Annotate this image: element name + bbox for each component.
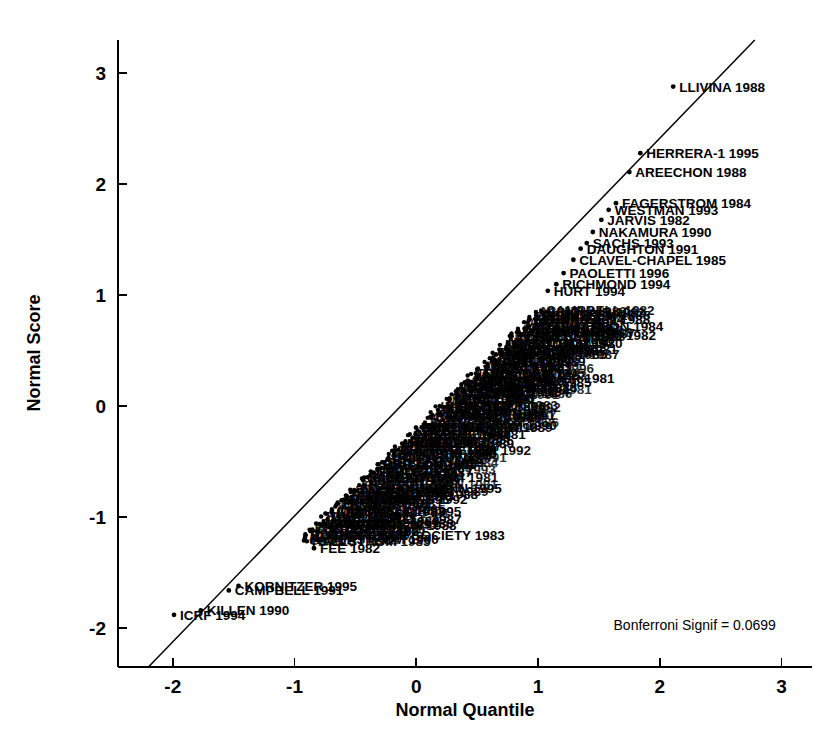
point-marker (375, 467, 379, 471)
point-marker (357, 483, 361, 487)
point-marker (342, 497, 346, 501)
point-marker (571, 257, 576, 262)
qq-plot-figure: -2-101233210-1-2 LLIVINA 1988HERRERA-1 1… (0, 0, 831, 749)
data-point: ICRF 1994 (172, 608, 246, 623)
axes-group (118, 40, 812, 667)
point-marker (396, 447, 400, 451)
point-marker (362, 483, 366, 487)
cluster-point: SINCLAIR 1982 (541, 305, 646, 320)
point-marker (314, 521, 318, 525)
bonferroni-signif: Bonferroni Signif = 0.0699 (614, 617, 776, 633)
point-marker (387, 452, 391, 456)
point-marker (335, 500, 339, 504)
y-axis-title: Normal Score (24, 294, 44, 411)
point-marker (172, 612, 177, 617)
point-marker (369, 469, 373, 473)
point-marker (522, 320, 526, 324)
normal-reference-line (148, 40, 754, 667)
point-marker (474, 371, 478, 375)
x-tick-label: -2 (164, 676, 181, 697)
point-marker (348, 488, 352, 492)
point-marker (319, 514, 323, 518)
point-marker (352, 488, 356, 492)
y-tick-label: 1 (95, 285, 106, 306)
point-marker (310, 527, 314, 531)
data-point: HURT 1994 (545, 284, 625, 299)
point-marker (226, 588, 231, 593)
point-label: ICRF 1994 (180, 608, 246, 623)
point-marker (433, 404, 437, 408)
point-marker (393, 444, 397, 448)
point-label: CAMPBELL 1991 (235, 583, 344, 598)
point-marker (482, 360, 486, 364)
point-marker (449, 392, 453, 396)
y-tick-label: 3 (95, 63, 106, 84)
point-marker (561, 271, 566, 276)
point-marker (469, 372, 473, 376)
point-marker (305, 539, 309, 543)
data-points-group: LLIVINA 1988HERRERA-1 1995AREECHON 1988F… (172, 80, 766, 623)
point-marker (408, 440, 412, 444)
point-marker (506, 341, 510, 345)
x-axis-title: Normal Quantile (395, 700, 534, 720)
y-tick-label: 0 (95, 396, 106, 417)
point-marker (590, 230, 595, 235)
point-marker (438, 404, 442, 408)
point-marker (326, 517, 330, 521)
point-marker (638, 151, 643, 156)
point-marker (414, 425, 418, 429)
point-marker (408, 432, 412, 436)
point-marker (541, 311, 545, 315)
data-point: CAMPBELL 1991 (226, 583, 343, 598)
point-marker (447, 396, 451, 400)
dense-cluster-group: GARVEY 1989FAGERSTROM 1990HALLSTROM 1985… (302, 303, 655, 549)
point-label: AREECHON 1988 (635, 165, 747, 180)
reference-line-group (148, 40, 754, 667)
point-marker (430, 413, 434, 417)
x-tick-label: 0 (411, 676, 422, 697)
point-marker (380, 460, 384, 464)
point-marker (516, 327, 520, 331)
point-marker (476, 366, 480, 370)
point-marker (425, 416, 429, 420)
x-tick-label: 1 (533, 676, 544, 697)
y-tick-label: 2 (95, 174, 106, 195)
point-marker (488, 356, 492, 360)
y-tick-label: -2 (89, 618, 106, 639)
point-marker (459, 385, 463, 389)
data-point: AREECHON 1988 (627, 165, 747, 180)
point-marker (321, 520, 325, 524)
point-label: HERRERA-1 1995 (646, 146, 759, 161)
point-marker (522, 326, 526, 330)
point-marker (509, 331, 513, 335)
point-marker (344, 493, 348, 497)
point-marker (454, 389, 458, 393)
point-marker (606, 207, 611, 212)
point-marker (527, 315, 531, 319)
point-marker (578, 246, 583, 251)
point-marker (365, 475, 369, 479)
point-marker (671, 84, 676, 89)
point-marker (497, 347, 501, 351)
point-marker (423, 420, 427, 424)
qq-plot-canvas: -2-101233210-1-2 LLIVINA 1988HERRERA-1 1… (0, 0, 831, 749)
annotations-group: Bonferroni Signif = 0.0699 (614, 617, 776, 633)
data-point: HERRERA-1 1995 (638, 146, 759, 161)
point-marker (303, 533, 307, 537)
point-marker (534, 310, 538, 314)
point-marker (494, 352, 498, 356)
point-label: SINCLAIR 1982 (548, 305, 646, 320)
x-tick-label: 3 (776, 676, 787, 697)
point-marker (324, 511, 328, 515)
point-label: HURT 1994 (554, 284, 626, 299)
point-marker (599, 217, 604, 222)
point-marker (467, 379, 471, 383)
x-tick-label: 2 (655, 676, 666, 697)
y-tick-label: -1 (89, 507, 106, 528)
point-marker (498, 343, 502, 347)
point-marker (545, 288, 550, 293)
point-marker (330, 507, 334, 511)
x-tick-label: -1 (286, 676, 303, 697)
point-marker (413, 432, 417, 436)
point-label: LLIVINA 1988 (679, 80, 765, 95)
